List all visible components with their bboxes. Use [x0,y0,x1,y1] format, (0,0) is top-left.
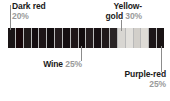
annotation-dark-red: Dark red 20% [12,2,46,21]
annotation-purple-red: Purple-red 25% [100,70,166,89]
color-swatch [8,28,16,48]
color-swatch [126,28,134,48]
annotation-yellow-gold: Yellow- gold 30% [86,2,142,21]
color-swatch [79,28,87,48]
color-proportion-figure: Dark red 20% Yellow- gold 30% Wine 25% P… [0,0,170,101]
leader-line-yellow-gold [121,20,122,31]
color-swatch [110,28,118,48]
leader-line-dark-red [10,5,11,30]
color-swatch [134,28,142,48]
color-swatch [55,28,63,48]
annotation-yellow-gold-line2: gold 30% [86,12,142,22]
color-swatch [24,28,32,48]
annotation-yellow-gold-percent: 30% [125,11,142,21]
color-swatch [32,28,40,48]
color-swatch [16,28,24,48]
color-swatch [47,28,55,48]
color-swatch [149,28,157,48]
annotation-purple-red-percent: 25% [100,80,166,90]
annotation-wine-percent: 25% [65,59,82,69]
annotation-wine: Wine 25% [24,60,82,70]
annotation-wine-name: Wine [43,59,63,69]
color-swatch [157,28,164,48]
color-swatch [63,28,71,48]
color-swatch [39,28,47,48]
color-swatch [86,28,94,48]
color-swatch [102,28,110,48]
color-swatch [94,28,102,48]
color-swatch [141,28,149,48]
color-swatch [118,28,126,48]
color-swatch [71,28,79,48]
annotation-dark-red-percent: 20% [12,12,46,22]
annotation-yellow-gold-name-line2: gold [105,11,123,21]
color-swatch-strip [8,28,164,48]
